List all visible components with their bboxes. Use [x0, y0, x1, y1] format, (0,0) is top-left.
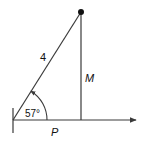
- hypotenuse-line: [13, 12, 81, 120]
- vertical-label: M: [85, 72, 95, 84]
- horizontal-label: P: [51, 126, 59, 138]
- endpoint-dot: [78, 9, 84, 15]
- vector-resolution-diagram: 4 M 57° P: [0, 0, 145, 143]
- angle-label: 57°: [25, 108, 40, 119]
- hypotenuse-label: 4: [40, 51, 46, 63]
